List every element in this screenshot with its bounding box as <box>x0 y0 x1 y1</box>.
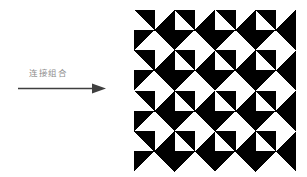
arrow-head <box>92 84 106 94</box>
canvas-stage: 连接组合 <box>0 0 307 177</box>
transition-label: 连接组合 <box>29 66 99 80</box>
transition-group: 连接组合 <box>18 66 110 98</box>
right-arrow-icon <box>18 82 108 94</box>
pinwheel-pattern-svg <box>134 10 296 172</box>
pinwheel-pattern-figure <box>134 10 296 172</box>
